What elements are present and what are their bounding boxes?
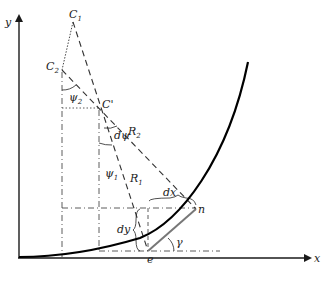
- label-gamma: γ: [176, 236, 183, 249]
- label-psi1: ψ1: [105, 167, 118, 182]
- label-c1: C1: [69, 8, 82, 23]
- label-dy: dy: [117, 223, 131, 236]
- dotted-c1-c2: [62, 22, 73, 70]
- curvature-diagram: y x C1 C2 C: [0, 0, 325, 301]
- label-R1: R1: [129, 172, 143, 187]
- label-psi2: ψ2: [69, 91, 83, 106]
- label-dpsi: dψ: [114, 129, 130, 142]
- curve: [19, 62, 248, 257]
- label-dx: dx: [163, 186, 177, 199]
- dpsi-arc: [104, 126, 117, 128]
- y-axis-label: y: [4, 16, 12, 29]
- label-e: e: [147, 253, 154, 266]
- label-n: n: [198, 203, 205, 216]
- axes: y x: [4, 16, 321, 265]
- diagram-canvas: y x C1 C2 C: [0, 0, 325, 301]
- construction-lines: [62, 22, 220, 257]
- psi1-arc: [99, 143, 112, 145]
- psi2-arc: [62, 85, 76, 90]
- quantity-labels: ψ2 ψ1 R2 R1 dψ dx dy γ: [69, 91, 183, 249]
- x-axis-label: x: [314, 252, 321, 265]
- gamma-arc: [168, 238, 174, 251]
- label-c2: C2: [46, 60, 59, 75]
- label-cprime: C': [102, 98, 113, 111]
- dy-brace: [133, 209, 140, 251]
